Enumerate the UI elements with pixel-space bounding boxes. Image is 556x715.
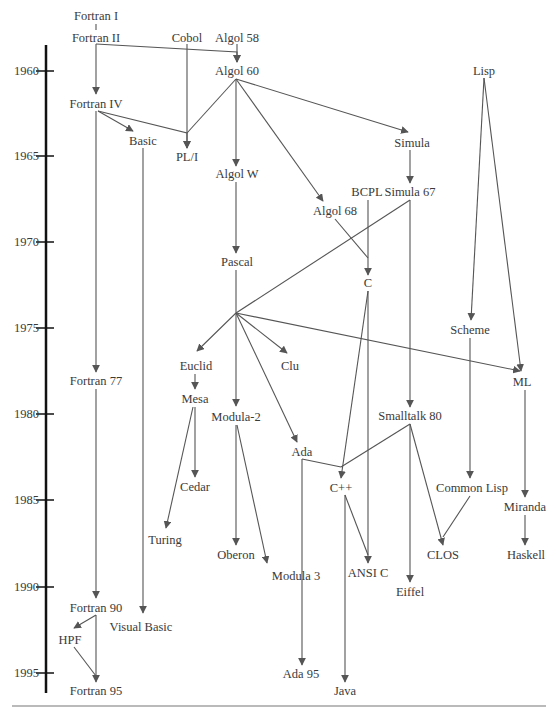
edge-algol60-to-algol68 (236, 79, 323, 201)
node-algol60: Algol 60 (215, 65, 259, 78)
node-fortran2: Fortran II (72, 32, 120, 45)
node-ada95: Ada 95 (283, 668, 319, 681)
edge-commonlisp-to-clos (443, 496, 470, 537)
node-ada: Ada (292, 446, 313, 459)
node-algolw: Algol W (215, 168, 258, 181)
node-java: Java (334, 685, 356, 698)
node-eiffel: Eiffel (396, 586, 424, 599)
year-label: 1975 (14, 322, 39, 335)
node-fortran77: Fortran 77 (70, 375, 122, 388)
language-genealogy-diagram: 19601965197019751980198519901995 Fortran… (0, 0, 556, 715)
edge-pascal-to-ml (236, 313, 520, 371)
node-clos: CLOS (427, 549, 459, 562)
edge-hpf-to-fortran95 (74, 647, 96, 676)
node-basic: Basic (129, 135, 157, 148)
node-cedar: Cedar (180, 481, 210, 494)
edge-modula2-to-modula3 (237, 425, 267, 563)
year-label: 1985 (14, 494, 39, 507)
edge-ada-to-cpp (302, 459, 341, 467)
node-cpp: C++ (330, 482, 352, 495)
edge-pascal-to-euclid (197, 270, 236, 351)
node-clu: Clu (281, 360, 299, 373)
year-label: 1995 (14, 667, 39, 680)
timeline-axis (36, 45, 54, 693)
node-miranda: Miranda (504, 501, 546, 514)
node-pascal: Pascal (221, 256, 253, 269)
edge-c-to-cpp (341, 291, 368, 478)
node-simula: Simula (394, 137, 429, 150)
edge-algol60-to-simula (236, 79, 408, 132)
node-hpf: HPF (59, 634, 82, 647)
node-smalltalk80: Smalltalk 80 (378, 410, 442, 423)
node-fortran4: Fortran IV (69, 98, 122, 111)
node-c: C (364, 277, 372, 290)
node-fortran90: Fortran 90 (70, 602, 122, 615)
node-ml: ML (513, 376, 532, 389)
year-label: 1965 (14, 150, 39, 163)
node-fortran1: Fortran I (74, 10, 118, 23)
edge-algol60-to-pl1 (187, 79, 236, 133)
node-cobol: Cobol (172, 32, 203, 45)
node-turing: Turing (148, 534, 182, 547)
edge-cpp-to-ansic (345, 495, 368, 555)
year-label: 1960 (14, 65, 39, 78)
node-modula2: Modula-2 (211, 411, 260, 424)
year-label: 1990 (14, 581, 39, 594)
node-algol68: Algol 68 (313, 205, 357, 218)
node-mesa: Mesa (181, 393, 208, 406)
edge-mesa-to-turing (166, 407, 193, 528)
edge-fortran90-to-hpf (74, 615, 96, 628)
edge-fortran4-to-basic (98, 111, 133, 131)
node-haskell: Haskell (507, 549, 545, 562)
node-commonlisp: Common Lisp (436, 482, 508, 495)
edges (74, 24, 525, 682)
node-lisp: Lisp (473, 65, 495, 78)
node-scheme: Scheme (450, 324, 490, 337)
node-pl1: PL/I (176, 151, 198, 164)
year-label: 1970 (14, 236, 39, 249)
edge-pascal-to-clu (236, 313, 287, 353)
node-simula67: Simula 67 (384, 186, 435, 199)
node-algol58: Algol 58 (215, 32, 259, 45)
node-euclid: Euclid (180, 360, 213, 373)
node-ansic: ANSI C (348, 567, 389, 580)
node-fortran95: Fortran 95 (70, 685, 122, 698)
node-visualbasic: Visual Basic (110, 621, 173, 634)
edge-fortran2-to-algol60 (96, 44, 237, 62)
edge-smalltalk80-to-cpp (341, 424, 410, 467)
edge-lisp-to-scheme (471, 78, 484, 320)
year-label: 1980 (14, 408, 39, 421)
node-modula3: Modula 3 (272, 570, 320, 583)
node-bcpl: BCPL (351, 186, 382, 199)
node-oberon: Oberon (217, 549, 255, 562)
